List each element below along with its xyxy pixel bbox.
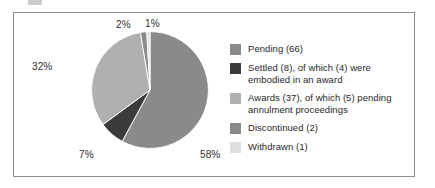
slice-percent-withdrawn: 1%: [145, 18, 160, 29]
pie-slice-group: [92, 32, 209, 149]
legend-item[interactable]: Awards (37), of which (5) pending annulm…: [230, 92, 410, 115]
legend-item[interactable]: Discontinued (2): [230, 122, 410, 134]
legend-swatch-icon: [230, 93, 241, 104]
slice-percent-settled: 7%: [79, 149, 94, 160]
pie-chart: [91, 31, 209, 149]
legend-swatch-icon: [230, 44, 241, 55]
clipped-text-artifact: [28, 0, 42, 5]
legend-item-label: Withdrawn (1): [248, 141, 308, 153]
slice-percent-awards: 32%: [32, 61, 52, 72]
chart-frame: 58% 7% 32% 2% 1% Pending (66) Settled (8…: [13, 12, 415, 177]
legend-item-label: Awards (37), of which (5) pending annulm…: [248, 92, 410, 115]
chart-legend: Pending (66) Settled (8), of which (4) w…: [230, 43, 410, 160]
legend-swatch-icon: [230, 63, 241, 74]
legend-item[interactable]: Pending (66): [230, 43, 410, 55]
legend-item-label: Settled (8), of which (4) were embodied …: [248, 62, 410, 85]
legend-swatch-icon: [230, 123, 241, 134]
legend-item[interactable]: Settled (8), of which (4) were embodied …: [230, 62, 410, 85]
pie-chart-area: 58% 7% 32% 2% 1%: [14, 13, 244, 178]
legend-swatch-icon: [230, 142, 241, 153]
legend-item-label: Discontinued (2): [248, 122, 318, 134]
slice-percent-discontinued: 2%: [116, 19, 131, 30]
slice-percent-pending: 58%: [200, 149, 220, 160]
legend-item-label: Pending (66): [248, 43, 303, 55]
legend-item[interactable]: Withdrawn (1): [230, 141, 410, 153]
